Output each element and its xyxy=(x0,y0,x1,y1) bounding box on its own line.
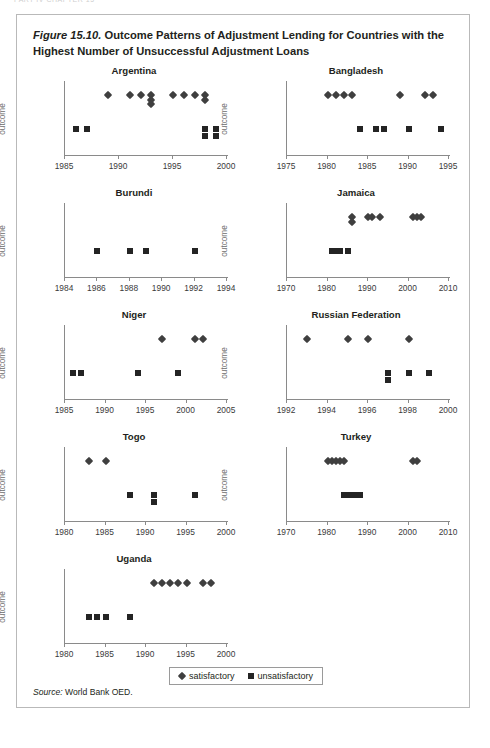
x-axis-tick-label: 1990 xyxy=(358,283,377,293)
data-point-satisfactory xyxy=(323,91,331,99)
panel-row: Argentinaoutcome1985199019952000Banglade… xyxy=(17,65,471,187)
x-axis-tick xyxy=(161,277,162,281)
diamond-marker-icon xyxy=(178,672,186,680)
panel-title: Burundi xyxy=(21,187,247,198)
x-axis-tick xyxy=(448,155,449,159)
x-axis-tick xyxy=(367,277,368,281)
x-axis-tick xyxy=(226,277,227,281)
x-axis-tick-label: 1990 xyxy=(95,405,114,415)
data-point-unsatisfactory xyxy=(84,126,90,132)
panel-plot-area xyxy=(287,203,449,275)
x-axis-tick xyxy=(145,643,146,647)
x-axis-tick xyxy=(186,399,187,403)
x-axis-tick xyxy=(408,521,409,525)
x-axis-tick xyxy=(105,643,106,647)
panel-title: Niger xyxy=(21,309,247,320)
x-axis-tick-label: 1992 xyxy=(184,283,203,293)
x-axis-tick xyxy=(145,521,146,525)
x-axis-tick xyxy=(408,277,409,281)
x-axis-tick xyxy=(286,155,287,159)
x-axis-tick-label: 1995 xyxy=(439,161,458,171)
x-axis-tick xyxy=(64,643,65,647)
data-point-satisfactory xyxy=(376,213,384,221)
x-axis-tick-label: 1985 xyxy=(55,161,74,171)
data-point-unsatisfactory xyxy=(357,492,363,498)
panel-uganda: Ugandaoutcome19801985199019952000 xyxy=(21,553,247,675)
x-axis-tick xyxy=(194,277,195,281)
data-point-unsatisfactory xyxy=(135,370,141,376)
data-point-unsatisfactory xyxy=(175,370,181,376)
x-axis-line xyxy=(64,399,228,400)
x-axis-tick xyxy=(408,399,409,403)
square-marker-icon xyxy=(248,673,254,679)
data-point-unsatisfactory xyxy=(127,614,133,620)
x-axis-tick-label: 1995 xyxy=(176,649,195,659)
x-axis-tick-label: 1988 xyxy=(119,283,138,293)
data-point-satisfactory xyxy=(364,335,372,343)
panel-title: Turkey xyxy=(243,431,469,442)
x-axis-tick-label: 1990 xyxy=(136,649,155,659)
panel-title: Uganda xyxy=(21,553,247,564)
x-axis-tick xyxy=(367,399,368,403)
panel-row: Nigeroutcome19851990199520002005Russian … xyxy=(17,309,471,431)
x-axis-tick-label: 1980 xyxy=(317,283,336,293)
data-point-satisfactory xyxy=(201,95,209,103)
x-axis-tick-label: 2000 xyxy=(398,283,417,293)
x-axis-tick xyxy=(327,155,328,159)
data-point-satisfactory xyxy=(85,457,93,465)
data-point-satisfactory xyxy=(207,579,215,587)
data-point-satisfactory xyxy=(158,335,166,343)
data-point-satisfactory xyxy=(147,100,155,108)
figure-caption: Figure 15.10. Outcome Patterns of Adjust… xyxy=(33,27,453,59)
chart-legend: satisfactory unsatisfactory xyxy=(169,667,323,685)
data-point-satisfactory xyxy=(101,457,109,465)
x-axis-tick xyxy=(226,155,227,159)
y-axis-label: outcome xyxy=(0,83,7,155)
x-axis-tick-label: 2000 xyxy=(398,527,417,537)
panel-plot-area xyxy=(65,203,227,275)
panel-plot-area xyxy=(287,325,449,397)
x-axis-tick xyxy=(96,277,97,281)
panel-russian-federation: Russian Federationoutcome199219941996199… xyxy=(243,309,469,431)
data-point-unsatisfactory xyxy=(86,614,92,620)
data-point-unsatisfactory xyxy=(385,370,391,376)
data-point-satisfactory xyxy=(396,91,404,99)
x-axis-tick-label: 1994 xyxy=(317,405,336,415)
y-axis-label: outcome xyxy=(0,571,7,643)
data-point-satisfactory xyxy=(198,335,206,343)
y-axis-label: outcome xyxy=(0,205,7,277)
x-axis-tick xyxy=(367,155,368,159)
x-axis-tick xyxy=(64,155,65,159)
panel-title: Argentina xyxy=(21,65,247,76)
x-axis-tick-label: 1985 xyxy=(55,405,74,415)
data-point-unsatisfactory xyxy=(202,133,208,139)
x-axis-tick-label: 1995 xyxy=(163,161,182,171)
x-axis-tick-label: 2000 xyxy=(217,161,236,171)
data-point-unsatisfactory xyxy=(385,377,391,383)
data-point-satisfactory xyxy=(174,579,182,587)
x-axis-line xyxy=(286,399,450,400)
x-axis-tick xyxy=(64,521,65,525)
x-axis-tick xyxy=(226,643,227,647)
x-axis-tick-label: 1992 xyxy=(277,405,296,415)
x-axis-tick-label: 1996 xyxy=(358,405,377,415)
x-axis-line xyxy=(286,277,450,278)
data-point-unsatisfactory xyxy=(438,126,444,132)
figure-number: Figure 15.10. xyxy=(33,29,101,41)
x-axis-tick-label: 1995 xyxy=(176,527,195,537)
x-axis-tick-label: 2000 xyxy=(439,405,458,415)
y-axis-label: outcome xyxy=(220,205,229,277)
x-axis-tick xyxy=(327,521,328,525)
panel-bangladesh: Bangladeshoutcome19751980198519901995 xyxy=(243,65,469,187)
x-axis-tick-label: 1980 xyxy=(317,161,336,171)
panel-plot-area xyxy=(65,569,227,641)
panel-row: Togooutcome19801985199019952000Turkeyout… xyxy=(17,431,471,553)
x-axis-tick-label: 1990 xyxy=(398,161,417,171)
x-axis-tick-label: 1990 xyxy=(109,161,128,171)
data-point-unsatisfactory xyxy=(381,126,387,132)
panel-burundi: Burundioutcome198419861988199019921994 xyxy=(21,187,247,309)
data-point-satisfactory xyxy=(198,579,206,587)
x-axis-tick xyxy=(327,277,328,281)
x-axis-tick-label: 1990 xyxy=(136,527,155,537)
data-point-satisfactory xyxy=(404,335,412,343)
